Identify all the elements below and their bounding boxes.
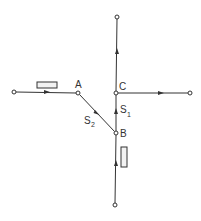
arrow-up-icon bbox=[114, 108, 118, 114]
node-label-a: A bbox=[75, 79, 82, 90]
node-c bbox=[114, 91, 118, 95]
node-a bbox=[76, 91, 80, 95]
node-label-b: B bbox=[120, 128, 127, 139]
edge-label-s1-subscript: 1 bbox=[127, 111, 131, 118]
block-rect-left bbox=[37, 82, 57, 88]
edge-c-to-top bbox=[116, 19, 117, 91]
node-left-terminal bbox=[12, 90, 16, 94]
arrow-right-icon bbox=[44, 90, 50, 94]
edge-label-s2-subscript: 2 bbox=[91, 121, 95, 128]
node-bottom-terminal bbox=[113, 203, 117, 207]
arrow-up-icon bbox=[114, 160, 118, 166]
node-top-terminal bbox=[115, 15, 119, 19]
edge-label-s2: S bbox=[84, 115, 91, 126]
edge-label-s1: S bbox=[120, 104, 127, 115]
arrow-up-icon bbox=[115, 48, 119, 54]
node-label-c: C bbox=[119, 81, 126, 92]
block-rect-bottom bbox=[121, 147, 127, 167]
node-b bbox=[114, 131, 118, 135]
node-right-terminal bbox=[188, 91, 192, 95]
edge-bottom-to-b bbox=[115, 135, 116, 203]
arrow-right-icon bbox=[158, 91, 164, 95]
flow-diagram: A C B S 1 S 2 bbox=[0, 0, 201, 221]
